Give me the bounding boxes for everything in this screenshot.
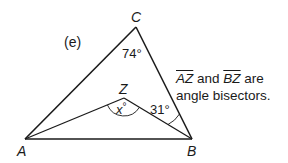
note-and: and — [193, 71, 223, 86]
note-are: are — [241, 71, 264, 86]
segment-az: AZ — [176, 71, 193, 86]
vertex-label-z: Z — [118, 81, 128, 97]
bisector-note: AZ and BZ are angle bisectors. — [176, 70, 271, 104]
angle-label-b: 31° — [150, 102, 170, 117]
note-line-2: angle bisectors. — [176, 87, 271, 104]
vertex-label-a: A — [16, 143, 26, 159]
segment-bz: BZ — [223, 71, 240, 86]
angle-label-z: x° — [115, 101, 127, 117]
vertex-label-c: C — [131, 9, 142, 25]
angle-label-c: 74° — [122, 46, 142, 61]
bisector-az — [25, 98, 124, 139]
triangle-abc — [25, 27, 192, 139]
problem-label: (e) — [64, 34, 81, 50]
note-line-1: AZ and BZ are — [176, 70, 271, 87]
angle-arc-b — [168, 114, 180, 125]
angle-degree-z: ° — [123, 101, 127, 112]
vertex-label-b: B — [187, 143, 196, 159]
